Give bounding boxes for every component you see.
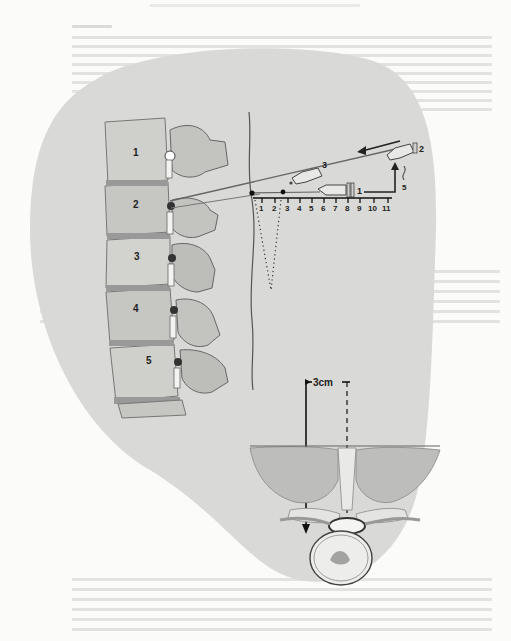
depth-label: 3cm — [313, 377, 333, 388]
tick-9: 9 — [357, 204, 362, 213]
syringe-1-label: 1 — [357, 186, 362, 196]
tick-7: 7 — [333, 204, 338, 213]
vertebra-label-5: 5 — [146, 355, 152, 366]
tick-8: 8 — [345, 204, 350, 213]
tick-6: 6 — [321, 204, 326, 213]
tick-1: 1 — [259, 204, 264, 213]
tick-5: 5 — [309, 204, 314, 213]
syringe-2-label: 2 — [419, 144, 424, 154]
tick-10: 10 — [368, 204, 377, 213]
vertebra-label-3: 3 — [134, 251, 140, 262]
step-label: 5 — [402, 183, 407, 192]
vertebra-label-4: 4 — [133, 303, 139, 314]
figure-backdrop — [30, 48, 436, 582]
tick-11: 11 — [382, 204, 391, 213]
syringe-3-label: 3 — [322, 160, 327, 170]
tick-3: 3 — [285, 204, 290, 213]
tick-2: 2 — [272, 204, 277, 213]
tick-4: 4 — [297, 204, 302, 213]
vertebra-label-2: 2 — [133, 199, 139, 210]
lumbar-block-figure: 1 2 3 4 5 3 2 1 5 — [0, 0, 511, 641]
vertebra-label-1: 1 — [133, 147, 139, 158]
